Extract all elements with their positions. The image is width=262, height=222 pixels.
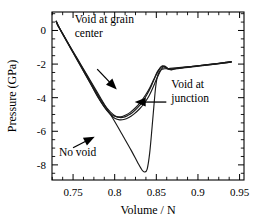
y-tick-labels: 0-2-4-6-8 bbox=[37, 24, 47, 170]
annotation-label: junction bbox=[170, 92, 209, 105]
annotations-group: Void at graincenterVoid atjunctionNo voi… bbox=[59, 13, 209, 158]
x-axis-title: Volume / N bbox=[120, 203, 175, 217]
y-tick-label: -6 bbox=[37, 125, 47, 137]
y-tick-label: 0 bbox=[41, 24, 47, 36]
x-tick-label: 0.85 bbox=[147, 186, 167, 198]
x-tick-label: 0.75 bbox=[63, 186, 83, 198]
annotation-arrow-shaft bbox=[97, 69, 110, 83]
y-axis-title: Pressure (GPa) bbox=[5, 60, 19, 132]
annotation-label: center bbox=[75, 27, 103, 39]
annotation-label: Void at grain bbox=[75, 13, 134, 26]
y-tick-label: -4 bbox=[37, 92, 47, 104]
annotation-arrow-head bbox=[83, 137, 95, 146]
annotation-label: No void bbox=[59, 146, 97, 158]
x-tick-label: 0.9 bbox=[191, 186, 205, 198]
x-tick-labels: 0.750.80.850.90.95 bbox=[63, 186, 249, 198]
y-tick-label: -8 bbox=[37, 159, 47, 171]
plot-canvas: Void at graincenterVoid atjunctionNo voi… bbox=[0, 0, 262, 222]
annotation-label: Void at bbox=[171, 78, 204, 90]
pressure-volume-chart-figure: Void at graincenterVoid atjunctionNo voi… bbox=[0, 0, 262, 222]
x-tick-label: 0.95 bbox=[230, 186, 250, 198]
y-tick-label: -2 bbox=[37, 58, 46, 70]
x-tick-label: 0.8 bbox=[108, 186, 122, 198]
